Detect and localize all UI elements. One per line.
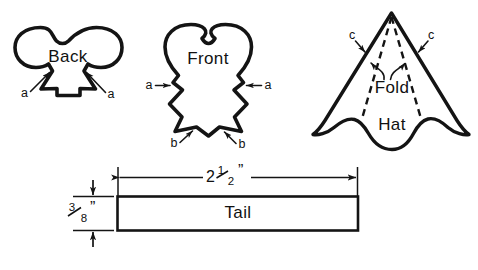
piece-label-back: Back: [48, 47, 87, 66]
dim-label-width: 3 8 ”: [68, 199, 95, 224]
marker-front-b-right: b: [239, 137, 246, 151]
marker-hat-c-left: c: [349, 28, 355, 42]
figure-canvas: Back a a Front a a b b: [0, 0, 478, 270]
piece-front: Front a a b b: [146, 25, 272, 152]
leader-hat-c-left: [356, 41, 366, 52]
marker-front-a-right: a: [265, 78, 272, 92]
marker-back-a-left: a: [21, 86, 28, 100]
marker-front-a-left: a: [146, 78, 153, 92]
dim-label-length: 2 1 2 ”: [206, 162, 243, 187]
dim-length-denominator: 2: [228, 175, 234, 187]
leader-front-b-left: [180, 131, 193, 143]
leader-front-b-right: [225, 132, 237, 144]
dim-length-whole: 2: [206, 168, 215, 185]
marker-front-b-left: b: [171, 136, 178, 150]
piece-label-front: Front: [187, 49, 229, 68]
piece-tail: 2 1 2 ” 3 8 ” Tail: [68, 162, 358, 247]
piece-label-tail: Tail: [224, 203, 251, 222]
piece-hat: Fold Hat c c: [313, 13, 469, 150]
dim-width-unit: ”: [90, 199, 95, 216]
piece-back: Back a a: [15, 28, 122, 102]
piece-label-fold: Fold: [375, 78, 410, 97]
pattern-diagram: Back a a Front a a b b: [0, 0, 478, 270]
dim-length-unit: ”: [238, 162, 243, 179]
leader-hat-c-right: [419, 41, 429, 52]
dim-width-denominator: 8: [81, 212, 87, 224]
marker-back-a-right: a: [108, 87, 115, 101]
marker-hat-c-right: c: [428, 28, 434, 42]
piece-label-hat: Hat: [378, 115, 406, 134]
